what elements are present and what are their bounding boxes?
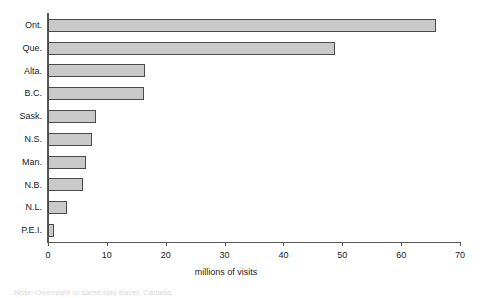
category-label-man: Man. [0,151,42,174]
x-tick-label: 0 [45,250,50,260]
bar [48,133,92,146]
bar [48,42,335,55]
x-tick-label: 50 [337,250,347,260]
bar [48,64,145,77]
category-label-nb: N.B. [0,174,42,197]
category-label-que: Que. [0,37,42,60]
category-label-ns: N.S. [0,128,42,151]
x-axis-spine [47,242,461,243]
x-tick [342,242,343,246]
x-tick [48,242,49,246]
bar [48,19,436,32]
x-tick-label: 10 [102,250,112,260]
x-tick [166,242,167,246]
bar-row [48,151,86,174]
bar-row [48,82,144,105]
x-tick-label: 20 [161,250,171,260]
x-tick-label: 40 [278,250,288,260]
bar [48,201,67,214]
x-tick [225,242,226,246]
x-tick-label: 30 [220,250,230,260]
bar-row [48,37,335,60]
category-label-pei: P.E.I. [0,219,42,242]
bar [48,110,96,123]
bar-row [48,174,83,197]
x-tick [401,242,402,246]
bar-chart: Ont.Que.Alta.B.C.Sask.N.S.Man.N.B.N.L.P.… [0,0,487,298]
category-label-nl: N.L. [0,196,42,219]
bar-row [48,105,96,128]
x-tick [107,242,108,246]
bar [48,156,86,169]
bar [48,178,83,191]
x-axis-title-text: millions of visits [195,267,258,277]
bar [48,224,54,237]
bar-row [48,196,67,219]
plot-area [48,14,460,242]
bar-row [48,128,92,151]
category-label-sask: Sask. [0,105,42,128]
x-tick [460,242,461,246]
category-label-ont: Ont. [0,14,42,37]
category-label-alta: Alta. [0,60,42,83]
x-tick-label: 70 [455,250,465,260]
x-tick [283,242,284,246]
bar-row [48,60,145,83]
footnote-clipped: Note: Overnight or same-day travel, Cana… [14,288,173,296]
x-tick-label: 60 [396,250,406,260]
bar-row [48,14,436,37]
bar-row [48,219,54,242]
bar [48,87,144,100]
x-axis-title: millions of visits [0,267,487,277]
category-label-bc: B.C. [0,82,42,105]
